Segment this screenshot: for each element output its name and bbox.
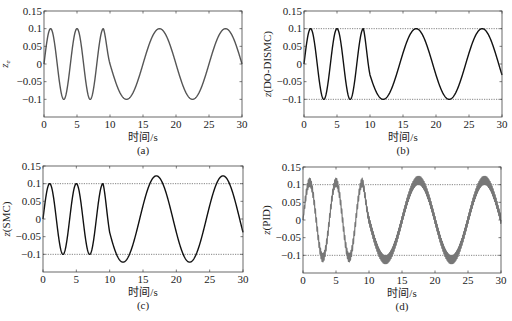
x-tick-label: 25 [464,118,476,130]
y-tick-label: −0.05 [16,230,42,242]
y-tick-label: 0.1 [27,177,41,189]
data-series-line [303,176,501,263]
y-tick-label: 0.15 [283,5,303,17]
panel-c: 051015202530−0.1−0.0500.050.10.15时间/s(c)… [0,160,249,313]
x-tick-label: 30 [497,118,509,130]
data-series-line [44,29,242,100]
x-axis-label: 时间/s [128,286,157,298]
y-tick-label: 0 [37,58,43,70]
x-tick-label: 30 [237,118,249,130]
data-series-line [304,29,502,100]
x-tick-label: 0 [40,273,46,285]
x-tick-label: 25 [204,118,216,130]
x-axis-label: 时间/s [387,287,416,299]
y-axis-label: ze [0,60,12,68]
panel-d: 051015202530−0.1−0.0500.050.10.15时间/s(d)… [260,161,507,314]
x-tick-label: 30 [238,273,250,285]
y-tick-label: −0.1 [21,248,41,260]
x-tick-label: 25 [463,274,475,286]
y-tick-label: 0 [36,213,42,225]
data-series-line [43,176,243,262]
y-tick-label: 0.05 [283,40,303,52]
x-tick-label: 5 [334,118,340,130]
x-tick-label: 30 [496,274,508,286]
y-tick-label: 0 [297,58,303,70]
y-tick-label: 0.15 [23,5,43,17]
x-tick-label: 20 [430,274,442,286]
y-axis-label: z(SMC) [0,201,13,237]
y-tick-label: 0.15 [22,160,42,172]
figure-canvas: 051015202530−0.1−0.0500.050.10.15时间/s(a)… [0,0,512,321]
axes-box [43,166,243,272]
panel-b: 051015202530−0.1−0.0500.050.10.15时间/s(b)… [261,5,508,158]
x-tick-label: 20 [431,118,443,130]
y-tick-label: 0.1 [288,22,302,34]
x-axis-label: 时间/s [128,131,157,143]
x-tick-label: 20 [171,118,183,130]
x-tick-label: 5 [333,274,339,286]
y-tick-label: −0.1 [22,93,42,105]
x-tick-label: 20 [171,273,183,285]
x-axis-label: 时间/s [388,131,417,143]
y-tick-label: 0.05 [23,40,43,52]
y-tick-label: 0.1 [287,178,301,190]
y-tick-label: −0.05 [276,231,302,243]
x-tick-label: 10 [105,118,117,130]
axes-box [304,11,502,117]
x-tick-label: 15 [397,274,409,286]
y-axis-label: z(DO-DISMC) [261,31,274,98]
y-tick-label: 0.05 [282,196,302,208]
x-tick-label: 10 [365,118,377,130]
y-tick-label: −0.05 [17,75,43,87]
y-tick-label: 0.1 [28,22,42,34]
x-tick-label: 10 [364,274,376,286]
y-tick-label: −0.1 [282,93,302,105]
y-tick-label: 0.15 [282,161,302,173]
x-tick-label: 0 [300,274,306,286]
y-tick-label: −0.05 [277,75,303,87]
y-tick-label: 0.05 [22,195,42,207]
panel-caption: (b) [397,144,410,157]
y-axis-label: z(PID) [260,205,273,236]
x-tick-label: 15 [138,273,150,285]
x-tick-label: 10 [104,273,116,285]
x-tick-label: 0 [301,118,307,130]
x-tick-label: 15 [138,118,150,130]
x-tick-label: 5 [74,273,80,285]
panel-caption: (a) [137,144,150,157]
y-tick-label: −0.1 [281,249,301,261]
y-tick-label: 0 [296,214,302,226]
panel-caption: (d) [396,300,409,313]
panel-a: 051015202530−0.1−0.0500.050.10.15时间/s(a)… [0,5,248,158]
x-tick-label: 0 [41,118,47,130]
x-tick-label: 15 [398,118,410,130]
panel-caption: (c) [137,299,150,312]
x-tick-label: 25 [204,273,216,285]
x-tick-label: 5 [74,118,80,130]
